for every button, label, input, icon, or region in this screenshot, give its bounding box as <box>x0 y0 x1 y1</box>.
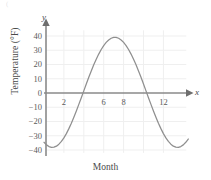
x-axis-variable-letter: x <box>195 87 199 97</box>
y-tick-label: −20 <box>18 117 42 126</box>
y-tick-label: 0 <box>18 89 42 98</box>
y-tick-label: −40 <box>18 146 42 155</box>
y-tick-label: 30 <box>18 46 42 55</box>
x-axis-arrowhead <box>186 89 194 97</box>
y-tick-label: −10 <box>18 103 42 112</box>
y-tick-label: 20 <box>18 60 42 69</box>
x-axis-title: Month <box>0 162 211 172</box>
vertical-gridlines <box>64 30 163 153</box>
x-tick-label: 2 <box>54 98 74 107</box>
y-tick-label: 40 <box>18 32 42 41</box>
x-tick-label: 6 <box>94 98 114 107</box>
x-tick-label: 12 <box>153 98 173 107</box>
y-axis-variable-letter: y <box>42 12 46 22</box>
x-tick-label: 8 <box>114 98 134 107</box>
temperature-month-chart-figure: ( 403020100−10−20−30−40 26812 x y Temper… <box>0 0 211 180</box>
y-tick-label: 10 <box>18 75 42 84</box>
y-axis-title: Temperature (°F) <box>10 1 20 121</box>
y-tick-label: −30 <box>18 132 42 141</box>
